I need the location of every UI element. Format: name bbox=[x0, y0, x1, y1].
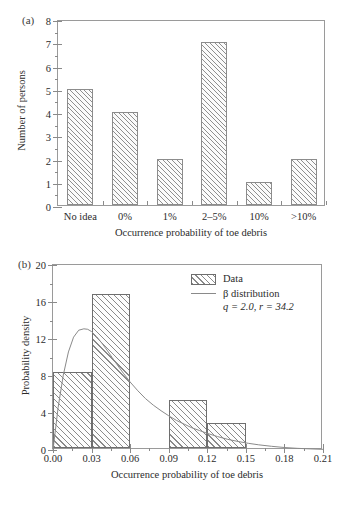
chart-a-x-tick bbox=[192, 201, 193, 205]
chart-a-category-label: 0% bbox=[118, 211, 132, 222]
chart-a-category-label: No idea bbox=[64, 211, 97, 222]
chart-a-y-axis-title: Number of persons bbox=[16, 46, 27, 176]
chart-b-x-tick-label: 0.15 bbox=[237, 453, 255, 464]
chart-a-y-tick-inner bbox=[58, 161, 62, 162]
chart-b-x-tick-label: 0.06 bbox=[121, 453, 139, 464]
chart-b-x-tick-label: 0.18 bbox=[275, 453, 293, 464]
panel-a: (a) Number of persons 012345678No idea0%… bbox=[0, 0, 339, 258]
panel-b-label: (b) bbox=[18, 258, 31, 270]
chart-b-x-axis-title: Occurrence probability of toe debris bbox=[53, 469, 321, 480]
chart-b-plot-frame: 0481216200.000.030.060.090.120.150.180.2… bbox=[52, 264, 322, 449]
chart-a-x-tick bbox=[281, 201, 282, 205]
chart-b-y-tick-label: 16 bbox=[36, 297, 47, 308]
chart-a-category-label: 2–5% bbox=[202, 211, 227, 222]
chart-a-category-label: >10% bbox=[291, 211, 316, 222]
legend-item-beta-distribution: β distribution q = 2.0, r = 34.2 bbox=[191, 288, 294, 313]
chart-a-y-tick-inner bbox=[58, 68, 62, 69]
panel-a-label: (a) bbox=[22, 14, 34, 26]
chart-a-y-tick-minor bbox=[55, 149, 58, 150]
chart-a-y-tick-label: 2 bbox=[46, 155, 51, 166]
chart-a-bar bbox=[291, 159, 317, 206]
chart-b-y-axis-title: Probability density bbox=[20, 281, 31, 431]
chart-b-y-tick-label: 8 bbox=[41, 371, 46, 382]
legend-item-data: Data bbox=[191, 273, 294, 285]
chart-a-y-tick-label: 0 bbox=[46, 202, 51, 213]
legend-swatch-line bbox=[191, 288, 216, 299]
chart-a-y-tick-inner bbox=[58, 184, 62, 185]
chart-a-x-tick bbox=[326, 201, 327, 205]
panel-b: (b) Probability density 0481216200.000.0… bbox=[0, 258, 339, 522]
chart-a-y-tick-minor bbox=[55, 79, 58, 80]
chart-b-x-tick-label: 0.03 bbox=[82, 453, 100, 464]
chart-a-y-tick-minor bbox=[55, 172, 58, 173]
chart-a-bar bbox=[67, 89, 93, 205]
chart-a-y-tick-inner bbox=[58, 44, 62, 45]
chart-a-plot-area: 012345678No idea0%1%2–5%10%>10% bbox=[58, 21, 324, 205]
chart-a-y-tick-minor bbox=[55, 56, 58, 57]
chart-a-y-tick-label: 3 bbox=[46, 132, 51, 143]
legend-label-beta-distribution: β distribution bbox=[223, 288, 294, 300]
chart-b-legend: Data β distribution q = 2.0, r = 34.2 bbox=[191, 273, 294, 316]
chart-a-y-tick-minor bbox=[55, 33, 58, 34]
chart-a-y-tick-minor bbox=[55, 102, 58, 103]
chart-a-y-tick-label: 8 bbox=[46, 16, 51, 27]
chart-a-y-tick-inner bbox=[58, 137, 62, 138]
chart-a-x-tick bbox=[103, 201, 104, 205]
chart-a-bar bbox=[201, 42, 227, 205]
chart-a-y-tick-label: 7 bbox=[46, 39, 51, 50]
chart-a-x-tick bbox=[147, 201, 148, 205]
chart-a-plot-frame: 012345678No idea0%1%2–5%10%>10% Occurren… bbox=[57, 20, 325, 206]
chart-a-y-tick-minor bbox=[55, 126, 58, 127]
chart-a-y-tick-inner bbox=[58, 207, 62, 208]
chart-b-x-tick-label: 0.00 bbox=[44, 453, 62, 464]
chart-a-y-tick-label: 6 bbox=[46, 62, 51, 73]
legend-label-data: Data bbox=[223, 273, 243, 285]
chart-b-x-tick-label: 0.21 bbox=[314, 453, 332, 464]
chart-a-y-tick-inner bbox=[58, 114, 62, 115]
legend-swatch-hatched bbox=[191, 274, 216, 285]
chart-a-bar bbox=[112, 112, 138, 205]
chart-b-y-tick-label: 4 bbox=[41, 408, 46, 419]
chart-a-y-tick-label: 1 bbox=[46, 178, 51, 189]
chart-a-y-tick-minor bbox=[55, 195, 58, 196]
chart-b-y-tick-label: 20 bbox=[36, 260, 47, 271]
chart-b-x-tick-inner bbox=[323, 444, 324, 448]
chart-a-y-tick-inner bbox=[58, 21, 62, 22]
chart-b-x-tick-label: 0.09 bbox=[160, 453, 178, 464]
chart-b-x-tick-label: 0.12 bbox=[198, 453, 216, 464]
chart-a-y-tick-label: 4 bbox=[46, 109, 51, 120]
chart-a-bar bbox=[157, 159, 183, 206]
legend-label-parameters: q = 2.0, r = 34.2 bbox=[223, 300, 294, 313]
chart-a-x-axis-title: Occurrence probability of toe debris bbox=[58, 227, 324, 238]
chart-a-y-tick-inner bbox=[58, 91, 62, 92]
chart-a-category-label: 10% bbox=[249, 211, 268, 222]
chart-a-category-label: 1% bbox=[163, 211, 177, 222]
chart-a-bar bbox=[246, 182, 272, 205]
chart-b-y-tick-label: 12 bbox=[36, 334, 47, 345]
chart-a-x-tick bbox=[237, 201, 238, 205]
chart-a-y-tick-label: 5 bbox=[46, 85, 51, 96]
